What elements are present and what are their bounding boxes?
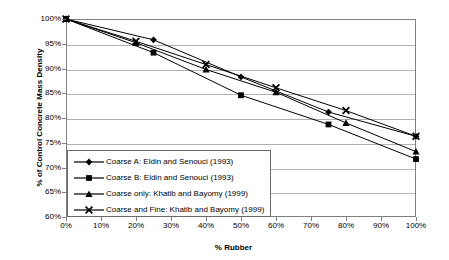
y-tick-label: 65% <box>27 187 61 196</box>
gridline <box>67 45 415 46</box>
gridline <box>67 119 415 120</box>
y-tick-mark <box>62 93 66 94</box>
y-tick-label: 75% <box>27 138 61 147</box>
x-tick-mark <box>101 217 102 221</box>
x-tick-mark <box>346 217 347 221</box>
gridline <box>67 144 415 145</box>
x-tick-mark <box>171 217 172 221</box>
data-point-diamond <box>86 159 93 166</box>
x-tick-label: 30% <box>151 221 191 230</box>
y-tick-mark <box>62 69 66 70</box>
legend-label: Coarse and Fine: Khatib and Bayomy (1999… <box>106 205 264 215</box>
y-tick-mark <box>62 192 66 193</box>
x-tick-label: 70% <box>291 221 331 230</box>
legend-label: Coarse A: Eldin and Senouci (1993) <box>106 157 233 167</box>
x-tick-label: 0% <box>46 221 86 230</box>
y-tick-label: 95% <box>27 39 61 48</box>
legend-item: Coarse only: Khatib and Bayomy (1999) <box>72 186 266 202</box>
legend-item: Coarse and Fine: Khatib and Bayomy (1999… <box>72 202 266 218</box>
x-tick-mark <box>66 217 67 221</box>
legend-item: Coarse B: Eldin and Senouci (1993) <box>72 170 266 186</box>
x-tick-mark <box>381 217 382 221</box>
x-tick-label: 10% <box>81 221 121 230</box>
legend-marker-square-icon <box>72 171 106 185</box>
x-tick-label: 40% <box>186 221 226 230</box>
x-tick-label: 80% <box>326 221 366 230</box>
x-tick-mark <box>276 217 277 221</box>
y-tick-label: 90% <box>27 64 61 73</box>
x-tick-label: 60% <box>256 221 296 230</box>
x-tick-label: 50% <box>221 221 261 230</box>
x-tick-label: 20% <box>116 221 156 230</box>
y-tick-mark <box>62 19 66 20</box>
x-tick-mark <box>311 217 312 221</box>
x-tick-label: 100% <box>396 221 436 230</box>
legend: Coarse A: Eldin and Senouci (1993)Coarse… <box>67 150 271 217</box>
x-tick-mark <box>416 217 417 221</box>
x-tick-label: 90% <box>361 221 401 230</box>
gridline <box>67 70 415 71</box>
x-tick-mark <box>241 217 242 221</box>
y-tick-label: 85% <box>27 88 61 97</box>
y-tick-label: 60% <box>27 212 61 221</box>
legend-label: Coarse B: Eldin and Senouci (1993) <box>106 173 234 183</box>
y-tick-mark <box>62 44 66 45</box>
legend-marker-triangle-icon <box>72 187 106 201</box>
y-tick-label: 80% <box>27 113 61 122</box>
y-tick-mark <box>62 168 66 169</box>
chart-figure: % of Control Concrete Mass Density % Rub… <box>0 0 449 260</box>
legend-marker-cross-icon <box>72 203 106 217</box>
y-tick-mark <box>62 143 66 144</box>
legend-marker-diamond-icon <box>72 155 106 169</box>
x-axis-title: % Rubber <box>50 243 417 252</box>
x-tick-mark <box>136 217 137 221</box>
gridline <box>67 94 415 95</box>
data-point-square <box>86 175 92 181</box>
x-tick-mark <box>206 217 207 221</box>
legend-label: Coarse only: Khatib and Bayomy (1999) <box>106 189 248 199</box>
y-tick-mark <box>62 118 66 119</box>
y-tick-label: 100% <box>27 14 61 23</box>
y-tick-label: 70% <box>27 163 61 172</box>
legend-item: Coarse A: Eldin and Senouci (1993) <box>72 154 266 170</box>
